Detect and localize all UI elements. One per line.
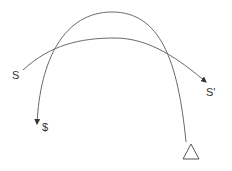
triangle-icon [183,144,199,159]
label-s: S [12,69,19,81]
diagram-canvas: S S' $ [0,0,232,171]
label-s-prime: S' [206,86,215,98]
label-dollar: $ [42,121,48,133]
arrow-s-to-s-prime [23,38,206,82]
arrow-triangle-to-dollar [37,12,186,142]
